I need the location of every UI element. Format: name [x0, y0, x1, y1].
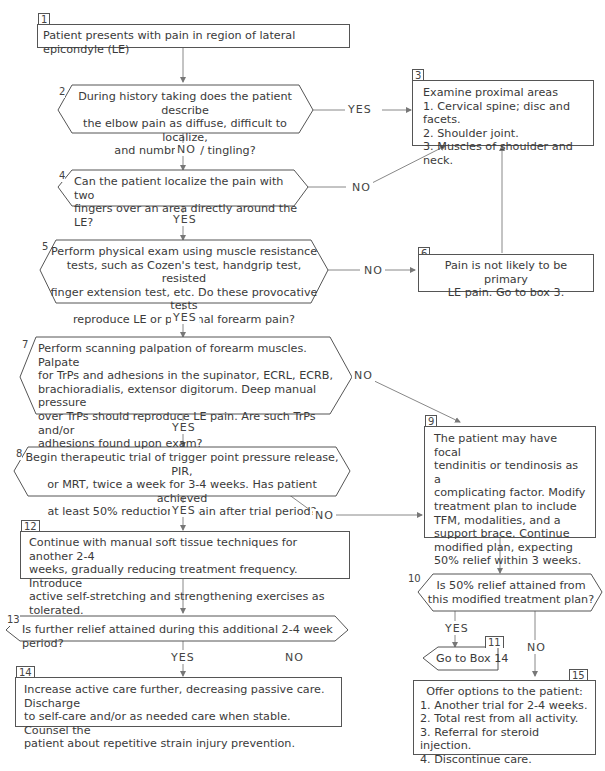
text-line: to self-care and/or as needed care when … — [24, 710, 333, 737]
list-item: 2. Total rest from all activity. — [420, 712, 589, 726]
text-line: Begin therapeutic trial of trigger point… — [22, 451, 342, 478]
box-number: 11 — [485, 636, 504, 648]
decision-modified-plan-relief: Is 50% relief attained from this modifie… — [425, 579, 597, 606]
yes-label: YES — [170, 421, 198, 434]
text-line: support brace. Continue — [434, 527, 586, 541]
text-line: Is 50% relief attained from — [425, 579, 597, 593]
offer-options-box: Offer options to the patient: 1. Another… — [413, 680, 596, 755]
text-line: tests, such as Cozen's test, handgrip te… — [50, 259, 318, 286]
text-line: the elbow pain as diffuse, difficult to … — [68, 117, 302, 144]
list-item: 4. Discontinue care. — [420, 753, 589, 767]
text-line: treatment plan to include — [434, 500, 586, 514]
text-line: The patient may have focal — [434, 432, 586, 459]
continue-soft-tissue-box: Continue with manual soft tissue techniq… — [20, 531, 350, 579]
text-line: or MRT, twice a week for 3-4 weeks. Has … — [22, 478, 342, 505]
box-number: 2 — [59, 86, 65, 98]
no-label: NO — [313, 509, 336, 522]
no-label: NO — [350, 181, 373, 194]
box-number: 5 — [42, 241, 48, 253]
lateral-epicondyle-flowchart: 1 Patient presents with pain in region o… — [0, 0, 605, 771]
focal-tendinitis-box: The patient may have focal tendinitis or… — [424, 426, 596, 538]
box15-title: Offer options to the patient: — [420, 685, 589, 699]
text-line: modified plan, expecting — [434, 541, 586, 555]
text-line: for TrPs and adhesions in the supinator,… — [38, 369, 338, 383]
text-line: finger extension test, etc. Do these pro… — [50, 286, 318, 313]
yes-label: YES — [443, 622, 471, 635]
list-item: 2. Shoulder joint. — [423, 127, 583, 141]
box-number: 13 — [7, 614, 20, 626]
no-label: NO — [362, 264, 385, 277]
yes-label: YES — [171, 311, 199, 324]
no-label: NO — [175, 143, 198, 156]
text-line: 50% relief within 3 weeks. — [434, 554, 586, 568]
list-item: 1. Another trial for 2-4 weeks. — [420, 699, 589, 713]
text-line: brachioradialis, extensor digitorum. Dee… — [38, 383, 338, 410]
no-label: NO — [283, 651, 306, 664]
list-item: 3. Muscles of shoulder and neck. — [423, 140, 583, 167]
text-line: weeks, gradually reducing treatment freq… — [29, 563, 341, 590]
go-to-box14: Go to Box 14 — [436, 652, 508, 666]
list-item: 1. Cervical spine; disc and facets. — [423, 100, 583, 127]
yes-label: YES — [170, 504, 198, 517]
text-line: LE pain. Go to box 3. — [423, 286, 589, 300]
text-line: Pain is not likely to be primary — [423, 259, 589, 286]
text-line: Increase active care further, decreasing… — [24, 683, 333, 710]
box-number: 7 — [22, 339, 28, 351]
text-line: Perform physical exam using muscle resis… — [50, 245, 318, 259]
text-line: this modified treatment plan? — [425, 593, 597, 607]
box-number: 10 — [408, 573, 421, 585]
options-list: 1. Another trial for 2-4 weeks. 2. Total… — [420, 699, 589, 767]
box-number: 4 — [59, 170, 65, 182]
increase-active-care-box: Increase active care further, decreasing… — [15, 677, 342, 727]
text-line: adhesions found upon exam? — [38, 437, 338, 451]
text-line: patient about repetitive strain injury p… — [24, 737, 333, 751]
text-line: Continue with manual soft tissue techniq… — [29, 536, 341, 563]
box3-title: Examine proximal areas — [423, 86, 583, 100]
start-box: Patient presents with pain in region of … — [37, 24, 350, 48]
proximal-areas-list: 1. Cervical spine; disc and facets. 2. S… — [423, 100, 583, 168]
not-primary-le-box: Pain is not likely to be primary LE pain… — [418, 254, 594, 292]
yes-label: YES — [346, 103, 374, 116]
no-label: NO — [352, 369, 375, 382]
text-line: Can the patient localize the pain with t… — [74, 175, 304, 202]
no-label: NO — [525, 641, 548, 654]
text-line: Perform scanning palpation of forearm mu… — [38, 342, 338, 369]
decision-further-relief: Is further relief attained during this a… — [22, 623, 342, 650]
text-line: tendinitis or tendinosis as a — [434, 459, 586, 486]
text-line: During history taking does the patient d… — [68, 90, 302, 117]
yes-label: YES — [169, 651, 197, 664]
examine-proximal-box: Examine proximal areas 1. Cervical spine… — [412, 80, 594, 146]
list-item: 3. Referral for steroid injection. — [420, 726, 589, 753]
text-line: active self-stretching and strengthening… — [29, 590, 341, 617]
text-line: TFM, modalities, and a — [434, 514, 586, 528]
yes-label: YES — [171, 213, 199, 226]
decision-scanning-palpation: Perform scanning palpation of forearm mu… — [38, 342, 338, 451]
text-line: complicating factor. Modify — [434, 486, 586, 500]
